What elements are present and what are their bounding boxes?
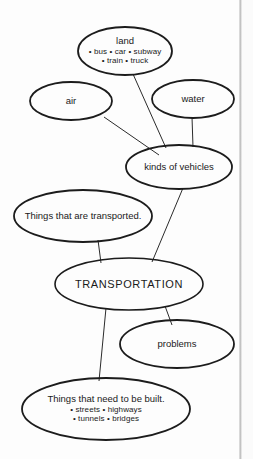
node-things-transported[interactable]: Things that are transported. bbox=[14, 190, 152, 242]
node-kinds-title: kinds of vehicles bbox=[144, 162, 214, 173]
node-built-title: Things that need to be built. bbox=[47, 394, 164, 405]
page-gutter-line bbox=[239, 0, 242, 459]
edge-kinds-transportation bbox=[152, 188, 183, 262]
node-things-to-be-built[interactable]: Things that need to be built. • streets … bbox=[22, 378, 190, 440]
node-kinds-of-vehicles[interactable]: kinds of vehicles bbox=[126, 145, 232, 189]
node-built-item-1: • tunnels • bridges bbox=[73, 414, 139, 423]
node-problems-title: problems bbox=[157, 339, 196, 350]
node-transportation-title: TRANSPORTATION bbox=[75, 278, 183, 291]
node-built-item-0: • streets • highways bbox=[70, 405, 142, 414]
node-problems[interactable]: problems bbox=[120, 320, 234, 368]
edge-transportation-built bbox=[99, 308, 106, 381]
node-land-item-1: • train • truck bbox=[102, 56, 149, 65]
node-land[interactable]: land • bus • car • subway • train • truc… bbox=[78, 27, 172, 75]
node-land-title: land bbox=[116, 36, 134, 47]
page-margin bbox=[242, 0, 253, 459]
node-transportation[interactable]: TRANSPORTATION bbox=[55, 258, 203, 310]
node-air-title: air bbox=[66, 96, 77, 107]
node-air[interactable]: air bbox=[30, 82, 112, 120]
node-land-item-0: • bus • car • subway bbox=[89, 47, 162, 56]
node-water-title: water bbox=[181, 94, 204, 105]
edge-water-kinds bbox=[192, 117, 193, 147]
node-transported-title: Things that are transported. bbox=[25, 211, 142, 222]
node-water[interactable]: water bbox=[152, 80, 234, 118]
concept-map-page: land • bus • car • subway • train • truc… bbox=[0, 0, 253, 459]
